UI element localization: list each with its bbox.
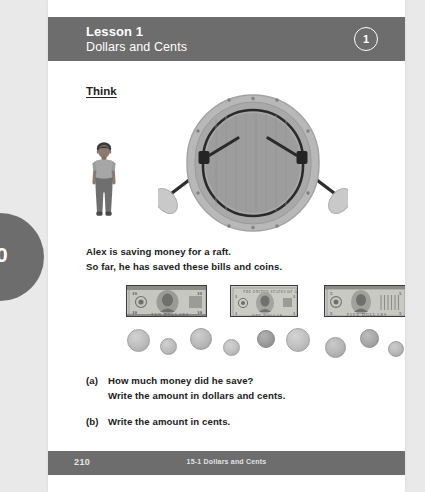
question-b-body: Write the amount in cents. — [108, 414, 230, 429]
svg-text:TEN DOLLARS: TEN DOLLARS — [151, 312, 189, 317]
worksheet-page: Lesson 1 Dollars and Cents 1 Think — [48, 0, 405, 492]
svg-text:10: 10 — [197, 291, 203, 296]
coins-row — [48, 327, 405, 361]
page-side-tab: 210 — [0, 213, 44, 301]
question-a: (a) How much money did he save? Write th… — [86, 373, 285, 403]
svg-text:1: 1 — [235, 294, 237, 299]
prompt-text: Alex is saving money for a raft. So far,… — [86, 244, 282, 274]
svg-text:THE UNITED STATES OF AMERICA: THE UNITED STATES OF AMERICA — [243, 290, 298, 294]
question-b-line-1: Write the amount in cents. — [108, 414, 230, 429]
footer-lesson-label: 15-1 Dollars and Cents — [48, 458, 405, 465]
question-b: (b) Write the amount in cents. — [86, 414, 285, 429]
question-a-marker: (a) — [86, 373, 108, 403]
question-a-line-1: How much money did he save? — [108, 373, 285, 388]
illustration-area — [48, 93, 405, 233]
coin-3 — [190, 328, 212, 350]
five-dollar-bill: 5 5 5 5 FIVE DOLLARS — [324, 285, 405, 317]
coin-1 — [127, 329, 150, 352]
lesson-header-bar: Lesson 1 Dollars and Cents 1 — [48, 17, 405, 61]
page-footer-bar: 210 15-1 Dollars and Cents — [48, 451, 405, 475]
svg-text:10: 10 — [197, 310, 203, 315]
question-b-marker: (b) — [86, 414, 108, 429]
lesson-number-badge: 1 — [354, 27, 378, 51]
raft-figure-icon — [158, 93, 348, 233]
coin-6 — [286, 328, 310, 352]
svg-text:10: 10 — [132, 291, 138, 296]
svg-text:FIVE DOLLARS: FIVE DOLLARS — [347, 312, 387, 317]
boy-figure-icon — [86, 140, 122, 217]
coin-8 — [360, 329, 379, 348]
page-content: Think — [48, 61, 405, 451]
coin-4 — [223, 339, 240, 356]
svg-text:1: 1 — [293, 294, 295, 299]
ten-dollar-bill: 10 10 10 10 TEN DOLLARS — [126, 285, 207, 317]
coin-5 — [257, 330, 275, 348]
svg-text:1: 1 — [293, 311, 295, 316]
coin-9 — [388, 341, 404, 357]
question-a-body: How much money did he save? Write the am… — [108, 373, 285, 403]
coin-7 — [325, 337, 346, 358]
question-spacer — [86, 403, 285, 414]
lesson-header-titles: Lesson 1 Dollars and Cents — [86, 24, 187, 55]
coin-2 — [160, 338, 177, 355]
lesson-title: Lesson 1 — [86, 24, 187, 39]
question-a-line-2: Write the amount in dollars and cents. — [108, 388, 285, 403]
questions-block: (a) How much money did he save? Write th… — [86, 373, 285, 429]
bills-row: 10 10 10 10 TEN DOLLARS THE UNITED STATE… — [48, 285, 405, 319]
svg-text:1: 1 — [235, 311, 237, 316]
page-side-tab-number: 210 — [0, 243, 16, 267]
one-dollar-bill: THE UNITED STATES OF AMERICA 1 1 1 1 ONE… — [230, 285, 298, 317]
lesson-subtitle: Dollars and Cents — [86, 40, 187, 55]
svg-text:10: 10 — [132, 310, 138, 315]
svg-text:ONE DOLLAR: ONE DOLLAR — [252, 314, 283, 318]
prompt-line-1: Alex is saving money for a raft. — [86, 244, 282, 259]
prompt-line-2: So far, he has saved these bills and coi… — [86, 259, 282, 274]
